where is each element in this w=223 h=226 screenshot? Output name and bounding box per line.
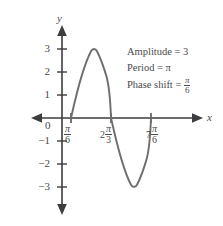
annotation-phase-shift-text: Phase shift = (127, 79, 184, 90)
x-tick-label-pi-over-6: π6 (64, 124, 71, 145)
x-axis-label: x (207, 112, 212, 123)
sine-graph-figure: y x 0 3 2 1 −1 −2 −3 π6 2π3 7π6 Amplitud… (0, 0, 223, 226)
fraction-pi-over-6: π6 (64, 124, 71, 145)
y-tick-label-minus-1: −1 (31, 135, 50, 146)
annotation-phase-shift: Phase shift = π6 (127, 76, 190, 92)
fraction-denominator: 6 (64, 135, 71, 145)
fraction-denominator: 6 (151, 135, 158, 145)
annotation-block: Amplitude = 3 Period = π Phase shift = π… (127, 44, 190, 92)
y-tick-label-minus-2: −2 (31, 158, 50, 169)
graph-canvas (0, 0, 223, 226)
origin-label: 0 (45, 120, 51, 131)
fraction-denominator: 6 (184, 86, 191, 95)
x-tick-label-7pi-over-6: 7π6 (146, 124, 158, 145)
fraction-pi-over-3: π3 (105, 124, 112, 145)
y-axis-label: y (57, 13, 62, 24)
x-axis (31, 113, 203, 123)
y-tick-label-2: 2 (36, 66, 50, 77)
y-tick-label-minus-3: −3 (31, 181, 50, 192)
fraction-pi-over-6b: π6 (151, 124, 158, 145)
annotation-period: Period = π (127, 60, 190, 76)
fraction-denominator: 3 (105, 135, 112, 145)
y-tick-label-1: 1 (36, 89, 50, 100)
annotation-amplitude: Amplitude = 3 (127, 44, 190, 60)
fraction-phase-shift: π6 (184, 76, 191, 95)
y-tick-label-3: 3 (36, 43, 50, 54)
x-tick-label-2pi-over-3: 2π3 (100, 124, 112, 145)
